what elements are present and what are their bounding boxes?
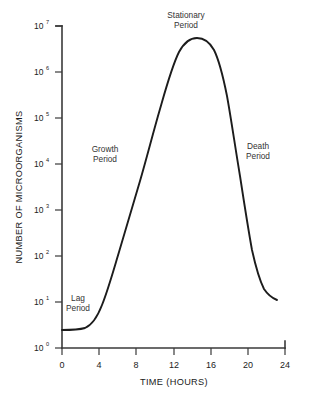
annotation-growth-period: Growth Period (92, 144, 119, 164)
y-axis-ticks (55, 26, 62, 348)
y-tick-label-1e0: 10 (34, 343, 44, 353)
x-tick-label-20: 20 (243, 360, 253, 370)
x-tick-label-8: 8 (133, 360, 138, 370)
y-tick-exp-1e7: 7 (46, 19, 49, 25)
growth-curve-line (62, 38, 277, 330)
x-axis-ticks (62, 348, 285, 355)
y-axis-title: NUMBER OF MICROORGANISMS (14, 111, 24, 264)
annotation-death-line1: Death (247, 141, 270, 151)
y-tick-exp-1e0: 0 (46, 341, 49, 347)
y-tick-label-1e7: 10 (34, 21, 44, 31)
annotation-lag-period: Lag Period (66, 293, 90, 313)
annotation-stationary-line2: Period (174, 20, 198, 30)
x-axis-title: TIME (HOURS) (140, 377, 208, 387)
y-tick-label-1e5: 10 (34, 113, 44, 123)
annotation-death-line2: Period (246, 151, 270, 161)
y-tick-exp-1e4: 4 (46, 157, 49, 163)
y-tick-exp-1e3: 3 (46, 203, 49, 209)
y-tick-label-1e3: 10 (34, 205, 44, 215)
y-tick-exp-1e6: 6 (46, 65, 49, 71)
annotation-growth-line2: Period (93, 154, 117, 164)
x-tick-label-4: 4 (96, 360, 101, 370)
y-tick-label-1e4: 10 (34, 159, 44, 169)
x-tick-label-0: 0 (59, 360, 64, 370)
x-tick-label-16: 16 (206, 360, 216, 370)
annotation-growth-line1: Growth (92, 144, 119, 154)
y-tick-label-1e2: 10 (34, 251, 44, 261)
x-axis-tick-labels: 0 4 8 12 16 20 24 (59, 360, 290, 370)
y-tick-label-1e1: 10 (34, 297, 44, 307)
x-tick-label-24: 24 (280, 360, 290, 370)
annotation-lag-line2: Period (66, 303, 90, 313)
annotation-lag-line1: Lag (71, 293, 85, 303)
y-tick-exp-1e5: 5 (46, 111, 49, 117)
annotation-stationary-line1: Stationary (167, 10, 205, 20)
annotation-stationary-period: Stationary Period (167, 10, 205, 30)
y-tick-exp-1e1: 1 (46, 295, 49, 301)
chart-canvas: 10 7 10 6 10 5 10 4 10 3 10 2 10 1 10 0 (0, 0, 311, 400)
x-tick-label-12: 12 (169, 360, 179, 370)
y-tick-label-1e6: 10 (34, 67, 44, 77)
growth-curve-figure: 10 7 10 6 10 5 10 4 10 3 10 2 10 1 10 0 (0, 0, 311, 400)
annotation-death-period: Death Period (246, 141, 270, 161)
y-tick-exp-1e2: 2 (46, 249, 49, 255)
y-axis-tick-labels: 10 7 10 6 10 5 10 4 10 3 10 2 10 1 10 0 (34, 19, 49, 353)
